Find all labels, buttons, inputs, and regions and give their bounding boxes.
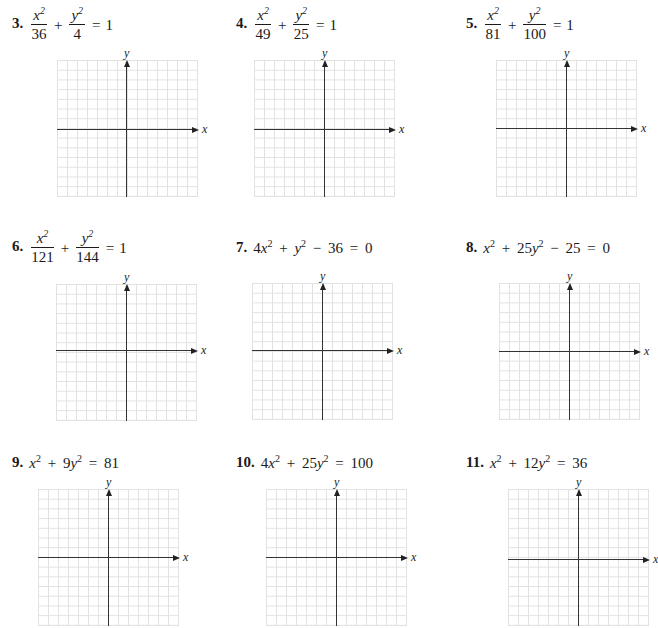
- x-axis-arrow-icon: [634, 349, 641, 355]
- y-axis-arrow-icon: [124, 284, 130, 291]
- problem-number: 7.: [236, 239, 247, 255]
- x-axis-label: x: [399, 123, 404, 135]
- y-axis-arrow-icon: [564, 60, 570, 67]
- y-axis-arrow-icon: [124, 60, 130, 67]
- x-axis-arrow-icon: [173, 555, 180, 561]
- y-axis: [108, 492, 109, 626]
- x-term-fraction: x249: [255, 8, 271, 42]
- rhs-value: 1: [566, 17, 574, 33]
- y-axis: [336, 492, 337, 626]
- equals-sign: =: [316, 17, 324, 33]
- equation-label: 10.4x2 + 25y2 = 100: [236, 455, 373, 471]
- x-axis: [508, 559, 645, 560]
- y-axis-label: y: [564, 47, 569, 59]
- equation-text: x2 + 12y2 = 36: [490, 455, 587, 471]
- problem-number: 9.: [12, 454, 23, 470]
- x-axis-arrow-icon: [389, 127, 396, 133]
- x-axis-arrow-icon: [387, 348, 394, 354]
- y-term-fraction: y2144: [76, 231, 99, 265]
- equation-label: 5.x281+y2100=1: [466, 8, 574, 42]
- y-axis: [578, 492, 579, 626]
- equation-text: x2 + 25y2 − 25 = 0: [483, 240, 610, 256]
- y-axis-label: y: [320, 270, 325, 282]
- x-axis-label: x: [411, 551, 416, 563]
- y-axis: [126, 63, 127, 197]
- equation-label: 4.x249+y225=1: [236, 8, 337, 42]
- equation-label: 7.4x2 + y2 − 36 = 0: [236, 240, 373, 256]
- y-axis-label: y: [106, 476, 111, 488]
- y-axis: [126, 287, 127, 421]
- x-axis-arrow-icon: [631, 126, 638, 132]
- y-term-fraction: y225: [293, 8, 309, 42]
- y-axis: [569, 286, 570, 420]
- y-axis-label: y: [322, 47, 327, 59]
- equation-label: 3.x236+y24=1: [12, 8, 113, 42]
- equation-text: 4x2 + 25y2 = 100: [261, 455, 373, 471]
- x-term-fraction: x2121: [31, 231, 54, 265]
- x-axis: [499, 351, 636, 352]
- plus-sign: +: [508, 17, 516, 33]
- y-axis-label: y: [334, 476, 339, 488]
- y-axis-label: y: [124, 47, 129, 59]
- x-axis-label: x: [653, 553, 658, 565]
- x-axis: [38, 557, 175, 558]
- equals-sign: =: [92, 17, 100, 33]
- x-axis: [56, 350, 193, 351]
- x-axis: [252, 350, 389, 351]
- x-axis: [254, 129, 391, 130]
- problem-number: 8.: [466, 239, 477, 255]
- y-axis-label: y: [567, 270, 572, 282]
- y-axis-label: y: [124, 271, 129, 283]
- x-axis-label: x: [397, 344, 402, 356]
- x-axis-label: x: [201, 344, 206, 356]
- problem-number: 3.: [12, 15, 23, 31]
- plus-sign: +: [54, 17, 62, 33]
- equation-label: 9.x2 + 9y2 = 81: [12, 455, 119, 471]
- y-axis-arrow-icon: [320, 283, 326, 290]
- y-axis-arrow-icon: [106, 489, 112, 496]
- x-axis-arrow-icon: [192, 127, 199, 133]
- x-axis-arrow-icon: [191, 348, 198, 354]
- problem-number: 4.: [236, 15, 247, 31]
- y-axis-arrow-icon: [576, 489, 582, 496]
- rhs-value: 1: [330, 17, 338, 33]
- y-term-fraction: y24: [69, 8, 85, 42]
- x-axis-arrow-icon: [643, 557, 650, 563]
- problem-number: 5.: [466, 15, 477, 31]
- x-axis: [496, 128, 633, 129]
- y-axis-arrow-icon: [567, 283, 573, 290]
- plus-sign: +: [61, 240, 69, 256]
- equation-label: 8.x2 + 25y2 − 25 = 0: [466, 240, 610, 256]
- x-axis-label: x: [641, 122, 646, 134]
- y-term-fraction: y2100: [523, 8, 546, 42]
- equals-sign: =: [106, 240, 114, 256]
- problem-number: 10.: [236, 454, 255, 470]
- x-axis-arrow-icon: [401, 555, 408, 561]
- y-axis-arrow-icon: [334, 489, 340, 496]
- rhs-value: 1: [119, 240, 127, 256]
- equation-label: 11.x2 + 12y2 = 36: [466, 455, 587, 471]
- y-axis-arrow-icon: [322, 60, 328, 67]
- x-axis-label: x: [202, 123, 207, 135]
- equation-text: 4x2 + y2 − 36 = 0: [253, 240, 372, 256]
- x-axis-label: x: [644, 345, 649, 357]
- x-axis: [266, 557, 403, 558]
- problem-number: 11.: [466, 454, 484, 470]
- x-axis-label: x: [183, 551, 188, 563]
- equation-label: 6.x2121+y2144=1: [12, 231, 127, 265]
- problem-number: 6.: [12, 238, 23, 254]
- y-axis: [566, 63, 567, 197]
- y-axis: [324, 63, 325, 197]
- plus-sign: +: [278, 17, 286, 33]
- y-axis: [322, 286, 323, 420]
- equals-sign: =: [553, 17, 561, 33]
- y-axis-label: y: [576, 476, 581, 488]
- x-term-fraction: x281: [485, 8, 501, 42]
- equation-text: x2 + 9y2 = 81: [29, 455, 119, 471]
- x-term-fraction: x236: [31, 8, 47, 42]
- rhs-value: 1: [106, 17, 114, 33]
